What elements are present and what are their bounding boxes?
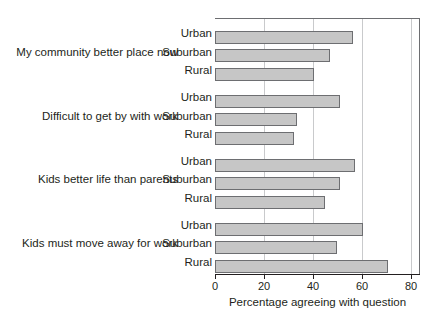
x-tick-0 [215, 274, 216, 279]
group-label-3: Kids must move away for work [22, 237, 178, 250]
x-tick-80 [411, 274, 412, 279]
group-label-2: Kids better life than parents [38, 173, 178, 186]
tier-label-suburban-1: Suburban [162, 110, 212, 123]
bar-2-urban [215, 159, 355, 172]
bar-2-rural [215, 196, 325, 209]
tier-label-suburban-2: Suburban [162, 173, 212, 186]
tier-label-rural-1: Rural [185, 128, 212, 141]
tier-label-urban-0: Urban [181, 27, 212, 40]
x-tick-40 [313, 274, 314, 279]
bar-2-suburban [215, 177, 340, 190]
x-tick-label-20: 20 [249, 280, 279, 292]
bar-1-suburban [215, 113, 297, 126]
tier-label-suburban-0: Suburban [162, 46, 212, 59]
x-tick-20 [264, 274, 265, 279]
bar-3-suburban [215, 241, 337, 254]
x-axis-title: Percentage agreeing with question [215, 296, 420, 309]
x-tick-label-60: 60 [347, 280, 377, 292]
x-tick-60 [362, 274, 363, 279]
tier-label-rural-3: Rural [185, 256, 212, 269]
gridline-80 [411, 19, 412, 274]
bar-0-urban [215, 31, 353, 44]
tier-label-rural-2: Rural [185, 192, 212, 205]
tier-label-urban-3: Urban [181, 219, 212, 232]
group-label-0: My community better place now [16, 46, 178, 59]
x-tick-label-80: 80 [396, 280, 426, 292]
bar-1-urban [215, 95, 340, 108]
bar-chart: My community better place now Difficult … [0, 0, 440, 321]
x-tick-label-40: 40 [298, 280, 328, 292]
tier-label-suburban-3: Suburban [162, 237, 212, 250]
bar-3-rural [215, 260, 388, 273]
bar-1-rural [215, 132, 294, 145]
tier-label-rural-0: Rural [185, 64, 212, 77]
tier-label-urban-1: Urban [181, 91, 212, 104]
plot-area [215, 18, 420, 274]
x-axis-line [215, 274, 420, 275]
tier-label-urban-2: Urban [181, 155, 212, 168]
bar-3-urban [215, 223, 363, 236]
bar-0-suburban [215, 49, 330, 62]
bar-0-rural [215, 68, 314, 81]
x-tick-label-0: 0 [200, 280, 230, 292]
group-label-1: Difficult to get by with work [42, 110, 178, 123]
